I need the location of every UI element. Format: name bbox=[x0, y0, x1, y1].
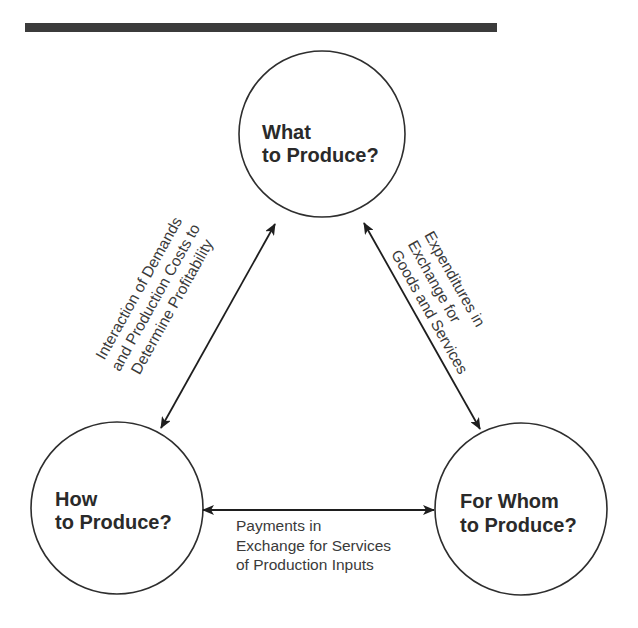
edge-how-for-whom: Payments in Exchange for Services of Pro… bbox=[203, 510, 434, 573]
node-what-to-produce: What to Produce? bbox=[239, 51, 405, 217]
node-for-whom-line1: For Whom bbox=[460, 490, 559, 512]
edge-label-what-for-whom: Expenditures in Exchange for Goods and S… bbox=[388, 228, 505, 377]
edge-how-for-whom-line2: Exchange for Services bbox=[236, 537, 391, 554]
node-what-line1: What bbox=[262, 121, 311, 143]
node-for-whom-line2: to Produce? bbox=[460, 514, 577, 536]
node-how-line2: to Produce? bbox=[55, 511, 172, 533]
edge-what-for-whom: Expenditures in Exchange for Goods and S… bbox=[364, 223, 505, 429]
economic-questions-diagram: What to Produce? How to Produce? For Who… bbox=[0, 0, 638, 628]
node-how-to-produce: How to Produce? bbox=[31, 422, 203, 594]
node-how-line1: How bbox=[55, 488, 98, 510]
node-for-whom-to-produce: For Whom to Produce? bbox=[435, 423, 607, 595]
edge-how-what: Interaction of Demands and Production Co… bbox=[91, 212, 275, 428]
edge-how-for-whom-line3: of Production Inputs bbox=[236, 556, 374, 573]
top-rule bbox=[25, 23, 497, 32]
node-what-line2: to Produce? bbox=[262, 144, 379, 166]
edge-how-for-whom-line1: Payments in bbox=[236, 517, 321, 534]
